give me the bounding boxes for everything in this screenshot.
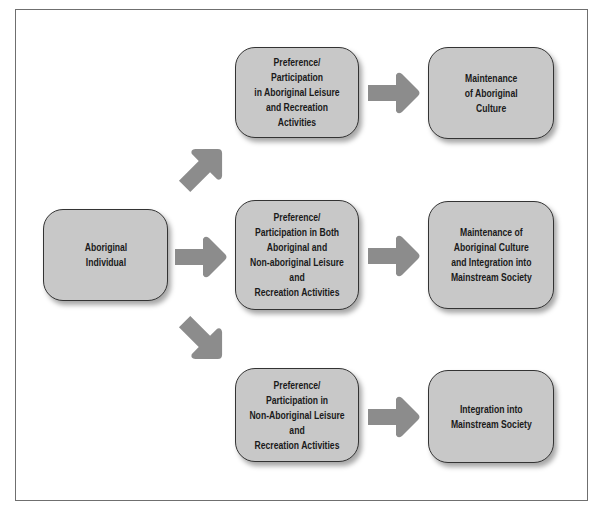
arrow-right-icon xyxy=(175,235,227,279)
node-aboriginal-activities: Preference/ Participation in Aboriginal … xyxy=(235,47,359,138)
node-label: Aboriginal Individual xyxy=(84,240,127,270)
node-both-activities: Preference/ Participation in Both Aborig… xyxy=(235,200,359,310)
arrow-up-right-icon xyxy=(178,140,228,196)
node-maintenance-culture: Maintenance of Aboriginal Culture xyxy=(428,47,554,139)
node-label: Integration into Mainstream Society xyxy=(451,402,532,432)
node-non-aboriginal-activities: Preference/ Participation in Non-Aborigi… xyxy=(235,368,359,462)
node-label: Preference/ Participation in Aboriginal … xyxy=(247,55,347,130)
node-maintenance-and-integration: Maintenance of Aboriginal Culture and In… xyxy=(428,201,554,309)
arrow-right-icon xyxy=(368,395,420,439)
node-label: Preference/ Participation in Both Aborig… xyxy=(247,210,347,300)
node-label: Maintenance of Aboriginal Culture xyxy=(465,71,518,116)
node-aboriginal-individual: Aboriginal Individual xyxy=(43,209,168,301)
node-integration-mainstream: Integration into Mainstream Society xyxy=(428,370,554,463)
arrow-down-right-icon xyxy=(178,312,228,368)
arrow-right-icon xyxy=(368,234,420,278)
arrow-right-icon xyxy=(368,71,420,115)
node-label: Maintenance of Aboriginal Culture and In… xyxy=(451,225,532,285)
node-label: Preference/ Participation in Non-Aborigi… xyxy=(247,378,347,453)
